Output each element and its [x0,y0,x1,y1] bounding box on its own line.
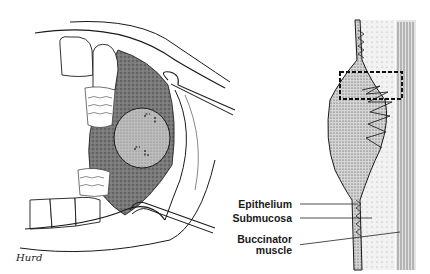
oral-cavity-illustration: Hurd [0,0,240,274]
oral-cavity-drawing [0,0,240,274]
label-submucosa: Submucosa [222,213,292,224]
label-epithelium: Epithelium [232,199,292,210]
artist-signature: Hurd [16,252,42,263]
label-muscle: muscle [222,245,292,256]
cross-section-illustration [300,0,430,274]
tissue-cross-section-drawing [300,0,430,274]
